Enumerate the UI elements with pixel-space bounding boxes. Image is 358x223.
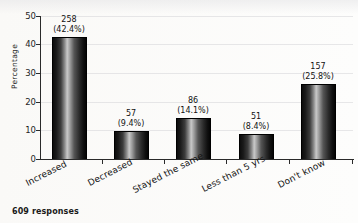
x-category-label-decreased: Decreased xyxy=(86,157,134,188)
chart-title-cropped xyxy=(150,0,355,8)
y-tick-label-40: 40 xyxy=(14,39,36,49)
bar-value-label-increased: 258 (42.4%) xyxy=(43,15,95,34)
x-category-label-dont-know: Don't know xyxy=(276,157,327,189)
bar-dont-know[interactable] xyxy=(301,84,336,159)
bar-increased[interactable] xyxy=(52,37,87,159)
bar-pct-less-than-5-yrs: (8.4%) xyxy=(230,122,282,132)
y-tick-mark-20 xyxy=(36,102,40,103)
y-tick-mark-40 xyxy=(36,44,40,45)
bar-pct-increased: (42.4%) xyxy=(43,25,95,35)
bar-count-stayed-the-same: 86 xyxy=(188,96,198,105)
gridline-40 xyxy=(41,44,353,45)
bar-pct-stayed-the-same: (14.1%) xyxy=(167,106,219,116)
y-tick-label-0: 0 xyxy=(14,154,36,164)
y-tick-mark-50 xyxy=(36,16,40,17)
y-axis-line xyxy=(40,16,41,159)
y-tick-label-30: 30 xyxy=(14,68,36,78)
bar-count-less-than-5-yrs: 51 xyxy=(251,112,261,121)
y-tick-mark-10 xyxy=(36,130,40,131)
x-tick-mark-3 xyxy=(226,160,227,164)
bar-count-increased: 258 xyxy=(61,15,76,24)
bar-value-label-stayed-the-same: 86 (14.1%) xyxy=(167,96,219,115)
bar-value-label-less-than-5-yrs: 51 (8.4%) xyxy=(230,112,282,131)
y-tick-label-50: 50 xyxy=(14,11,36,21)
responses-footnote: 609 responses xyxy=(12,207,79,216)
x-tick-mark-2 xyxy=(164,160,165,164)
bar-value-label-dont-know: 157 (25.8%) xyxy=(292,62,344,81)
bar-count-dont-know: 157 xyxy=(310,62,325,71)
bar-pct-dont-know: (25.8%) xyxy=(292,72,344,82)
y-tick-mark-30 xyxy=(36,73,40,74)
bar-value-label-decreased: 57 (9.4%) xyxy=(105,109,157,128)
bar-decreased[interactable] xyxy=(114,131,149,159)
bar-chart: Percentage 50 40 30 20 10 0 258 (42.4%) … xyxy=(0,0,358,223)
x-tick-mark-4 xyxy=(289,160,290,164)
bar-pct-decreased: (9.4%) xyxy=(105,119,157,129)
x-tick-mark-5 xyxy=(352,160,353,164)
x-tick-mark-1 xyxy=(102,160,103,164)
bar-count-decreased: 57 xyxy=(126,109,136,118)
y-tick-label-10: 10 xyxy=(14,125,36,135)
y-tick-label-20: 20 xyxy=(14,97,36,107)
